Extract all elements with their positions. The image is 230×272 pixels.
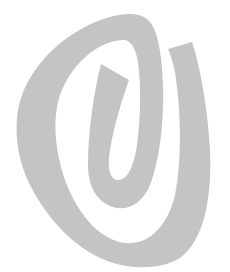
spiral-logo-icon <box>0 0 230 272</box>
spiral-shape <box>17 14 211 267</box>
canvas <box>0 0 230 272</box>
